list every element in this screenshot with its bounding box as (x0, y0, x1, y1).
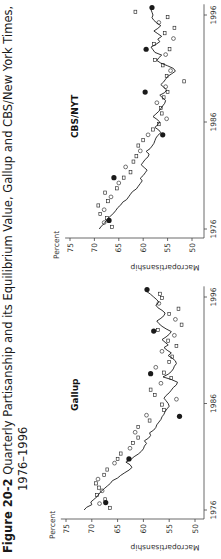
cbs-y-axis: 505560657075 (65, 238, 204, 253)
data-point-circle (124, 165, 128, 169)
y-tick-label: 75 (62, 524, 71, 534)
data-point-circle (165, 117, 169, 121)
data-point-circle (128, 446, 132, 450)
data-point-square (163, 371, 166, 374)
y-tick-label: 65 (114, 243, 123, 253)
data-point-square (137, 144, 140, 147)
data-point-square (97, 204, 100, 207)
data-point-square (163, 32, 166, 35)
data-point-square (160, 112, 163, 115)
cbs-plot-area (97, 5, 186, 229)
y-tick-label: 50 (188, 243, 197, 253)
y-tick-label: 60 (139, 524, 148, 534)
data-point-circle (96, 477, 100, 481)
data-point-square (135, 155, 138, 158)
data-point-square (168, 48, 171, 51)
x-tick-label: 1976 (209, 219, 218, 238)
data-point-square (107, 200, 110, 203)
data-point-square (106, 468, 109, 471)
cbs-panel-title: CBS/NYT (70, 94, 80, 138)
x-tick-label: 1986 (209, 112, 218, 131)
data-point-filled (148, 371, 153, 376)
data-point-square (175, 344, 178, 347)
data-point-circle (138, 149, 142, 153)
y-tick-label: 55 (163, 243, 172, 253)
data-point-circle (98, 502, 102, 506)
gallup-plot-area (84, 287, 183, 510)
data-point-square (116, 457, 119, 460)
data-point-square (168, 312, 171, 315)
data-point-filled (111, 175, 116, 180)
gallup-x-axis: 197619861996 (204, 286, 218, 519)
data-point-square (108, 506, 111, 509)
x-tick-label: 1976 (209, 500, 218, 519)
data-point-square (161, 296, 164, 299)
data-point-square (99, 212, 102, 215)
data-point-circle (173, 317, 177, 321)
data-point-filled (177, 414, 182, 419)
data-point-circle (159, 381, 163, 385)
data-point-square (161, 403, 164, 406)
data-point-square (98, 486, 101, 489)
y-tick-label: 60 (139, 243, 148, 253)
x-tick-label: 1996 (209, 287, 218, 306)
data-point-square (177, 307, 180, 310)
rotated-figure-page: Figure 20-2 Quarterly Partisanship and i… (0, 0, 221, 559)
y-tick-label: 50 (191, 524, 200, 534)
data-point-filled (151, 328, 156, 333)
data-point-circle (154, 365, 158, 369)
data-point-circle (117, 181, 121, 185)
cbs-x-axis: 197619861996 (204, 4, 218, 238)
x-tick-label: 1986 (209, 394, 218, 413)
data-point-square (122, 176, 125, 179)
data-point-circle (169, 69, 173, 73)
cbs-y-unit-label: Percent (52, 231, 61, 259)
gallup-chart: Percent Gallup Macropartisanship 5055606… (48, 286, 218, 552)
data-point-circle (146, 133, 150, 137)
data-point-circle (155, 101, 159, 105)
data-point-square (159, 292, 162, 295)
data-point-square (103, 473, 106, 476)
y-tick-label: 55 (165, 524, 174, 534)
gallup-y-axis: 505560657075 (61, 519, 204, 534)
data-point-filled (103, 500, 108, 505)
data-point-square (134, 10, 137, 13)
data-point-filled (144, 47, 149, 52)
data-point-filled (143, 89, 148, 94)
data-point-square (129, 171, 132, 174)
equilibrium-line (99, 10, 175, 229)
data-point-square (132, 441, 135, 444)
y-tick-label: 70 (90, 243, 99, 253)
data-point-square (166, 90, 169, 93)
data-point-square (148, 419, 151, 422)
cbs-nyt-chart: Percent CBS/NYT Macropartisanship 505560… (52, 4, 218, 272)
data-point-square (142, 139, 145, 142)
data-point-circle (133, 430, 137, 434)
y-tick-label: 65 (113, 524, 122, 534)
data-point-circle (145, 413, 149, 417)
data-point-square (173, 26, 176, 29)
data-point-circle (160, 349, 164, 353)
data-point-filled (160, 132, 165, 137)
data-point-circle (164, 85, 168, 89)
data-point-square (95, 482, 98, 485)
data-point-circle (113, 461, 117, 465)
data-point-square (154, 58, 157, 61)
data-point-circle (175, 397, 179, 401)
data-point-filled (144, 287, 149, 292)
gallup-panel-title: Gallup (70, 378, 80, 411)
data-point-circle (102, 208, 106, 212)
data-point-circle (164, 53, 168, 57)
data-point-square (167, 339, 170, 342)
data-point-square (183, 80, 186, 83)
data-point-circle (172, 37, 176, 41)
data-point-circle (109, 195, 113, 199)
data-point-square (153, 393, 156, 396)
data-point-square (137, 425, 140, 428)
data-point-square (115, 187, 118, 190)
data-point-square (104, 191, 107, 194)
data-point-square (111, 225, 114, 228)
data-point-filled (149, 5, 154, 10)
data-point-square (137, 436, 140, 439)
y-tick-label: 70 (87, 524, 96, 534)
